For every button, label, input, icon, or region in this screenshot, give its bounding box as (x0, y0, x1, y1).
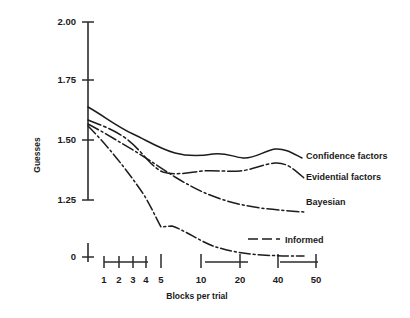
series-label-informed: Informed (285, 235, 324, 245)
y-tick-label-0: 0 (71, 251, 76, 262)
series-curve-evidential-factors (88, 120, 304, 178)
x-axis-title: Blocks per trial (166, 291, 227, 301)
x-tick-label-40: 40 (273, 274, 284, 285)
series-curve-informed (88, 126, 304, 256)
y-tick-label-150: 1.50 (58, 134, 77, 145)
y-tick-label-125: 1.25 (58, 194, 77, 205)
x-tick-label-20: 20 (235, 274, 246, 285)
x-tick-label-4: 4 (143, 274, 149, 285)
series-label-bayesian: Bayesian (306, 197, 346, 207)
x-tick-label-3: 3 (130, 274, 135, 285)
series-label-confidence-factors: Confidence factors (306, 151, 388, 161)
series-curve-confidence-factors (88, 107, 302, 158)
series-label-evidential-factors: Evidential factors (306, 172, 381, 182)
data-series-group (88, 107, 304, 256)
x-axis: 1 2 3 4 5 10 20 40 50 Blocks per trial (101, 254, 321, 301)
y-tick-label-175: 1.75 (58, 74, 77, 85)
y-tick-label-200: 2.00 (58, 16, 77, 27)
series-labels-group: Confidence factors Evidential factors Ba… (248, 151, 388, 245)
figure-container: 2.00 1.75 1.50 1.25 0 Guesses 1 2 3 4 (0, 0, 410, 318)
x-tick-label-10: 10 (196, 274, 207, 285)
y-axis: 2.00 1.75 1.50 1.25 0 Guesses (32, 16, 94, 262)
series-curve-bayesian (88, 124, 304, 212)
x-tick-label-1: 1 (101, 274, 107, 285)
line-chart: 2.00 1.75 1.50 1.25 0 Guesses 1 2 3 4 (0, 0, 410, 318)
y-axis-title: Guesses (32, 137, 42, 173)
x-tick-label-50: 50 (311, 274, 322, 285)
x-tick-label-2: 2 (116, 274, 121, 285)
x-tick-label-5: 5 (158, 274, 164, 285)
